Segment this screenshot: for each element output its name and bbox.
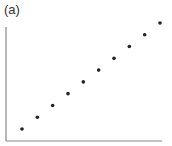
data-point [97, 68, 101, 72]
data-point [36, 115, 40, 119]
data-point [112, 57, 116, 61]
data-point [158, 21, 162, 25]
data-points [20, 21, 162, 131]
data-point [143, 33, 147, 37]
scatter-plot [0, 0, 172, 146]
data-point [51, 104, 55, 108]
data-point [128, 45, 132, 49]
data-point [66, 92, 70, 96]
data-point [20, 127, 24, 131]
data-point [82, 80, 86, 84]
